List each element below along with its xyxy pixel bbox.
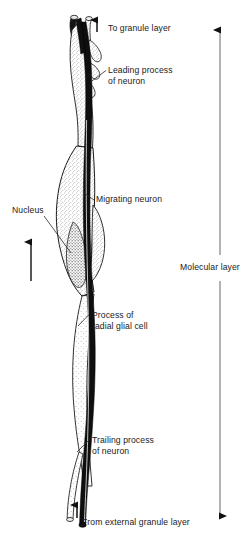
trailing-process-terminal xyxy=(67,518,74,522)
label-trailing-process-line1: Trailing process xyxy=(92,435,154,446)
label-molecular-layer: Molecular layer xyxy=(180,262,240,273)
label-to-granule-layer: To granule layer xyxy=(108,23,171,34)
label-migrating-neuron: Migrating neuron xyxy=(96,194,162,205)
label-leading-process-line1: Leading process xyxy=(108,65,192,76)
label-leading-process-line2: of neuron xyxy=(108,76,192,87)
label-from-external-granule-layer: From external granule layer xyxy=(82,517,190,528)
label-process-radial-glial-line1: Process of xyxy=(92,310,134,321)
label-nucleus: Nucleus xyxy=(12,205,44,216)
migrating-neuron-diagram: To granule layer Leading process of neur… xyxy=(0,0,247,553)
label-trailing-process-line2: of neuron xyxy=(92,446,129,457)
label-process-radial-glial-line2: radial glial cell xyxy=(92,321,148,332)
